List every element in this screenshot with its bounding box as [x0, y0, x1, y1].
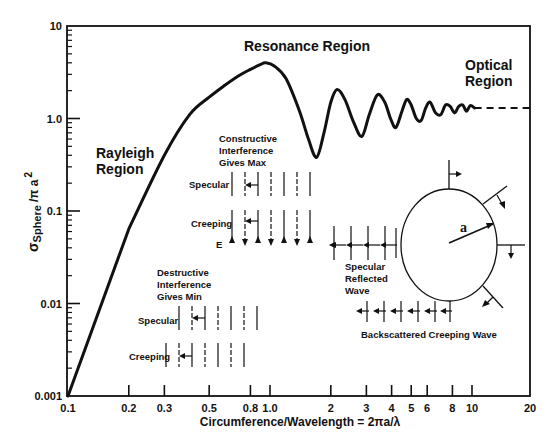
y-tick-label: 1.0	[47, 113, 62, 125]
y-tick-label: 0.1	[47, 205, 62, 217]
svg-text:E: E	[216, 239, 222, 250]
svg-text:Specular: Specular	[189, 179, 229, 190]
x-tick-label: 0.3	[157, 402, 172, 414]
sphere-circle	[401, 189, 497, 301]
svg-text:σSphere/π a2: σSphere/π a2	[23, 172, 43, 252]
x-axis-label: Circumference/Wavelength = 2πa/λ	[200, 415, 401, 429]
y-tick-label: 10	[50, 20, 62, 32]
x-axis-ticks: 0.10.20.30.50.81.02345681020	[60, 385, 536, 414]
sphere-scattering-diagram: a Specular Reflected Wave Backscattered …	[329, 160, 525, 340]
resonance-region-label: Resonance Region	[244, 38, 370, 54]
svg-text:Specular: Specular	[138, 315, 178, 326]
x-tick-label: 3	[363, 402, 369, 414]
rcs-curve	[68, 63, 475, 396]
y-tick-label: 0.01	[41, 298, 62, 310]
optical-region-label: Optical Region	[465, 57, 516, 89]
x-tick-label: 0.1	[60, 402, 75, 414]
svg-text:Specular Reflected: Specular Reflected Wave	[345, 261, 390, 296]
x-tick-label: 4	[389, 402, 396, 414]
x-tick-label: 0.5	[202, 402, 217, 414]
svg-text:Creeping: Creeping	[129, 351, 170, 362]
x-tick-label: 1.0	[262, 402, 277, 414]
svg-text:Constructive Interferenc: Constructive Interference Gives Max	[219, 133, 280, 168]
x-tick-label: 0.8	[243, 402, 258, 414]
rayleigh-region-label: Rayleigh Region	[96, 145, 158, 177]
x-tick-label: 5	[408, 402, 414, 414]
x-tick-label: 0.2	[121, 402, 136, 414]
constructive-interference-inset: Constructive Interference Gives Max Spec…	[189, 133, 313, 250]
svg-text:Destructive Interference: Destructive Interference Gives Min	[157, 267, 214, 302]
x-tick-label: 20	[524, 402, 536, 414]
x-tick-label: 2	[328, 402, 334, 414]
x-tick-label: 10	[466, 402, 478, 414]
y-tick-label: 0.001	[34, 390, 62, 402]
svg-text:Backscattered Creeping Wave: Backscattered Creeping Wave	[361, 329, 497, 340]
x-tick-label: 6	[424, 402, 430, 414]
radius-label: a	[460, 220, 467, 235]
x-tick-label: 8	[449, 402, 455, 414]
rcs-chart: 0.0010.010.11.010 0.10.20.30.50.81.02345…	[0, 0, 554, 447]
y-axis-label: σSphere/π a2	[23, 172, 43, 252]
destructive-interference-inset: Destructive Interference Gives Min Specu…	[129, 267, 257, 367]
svg-text:Creeping: Creeping	[191, 218, 232, 229]
